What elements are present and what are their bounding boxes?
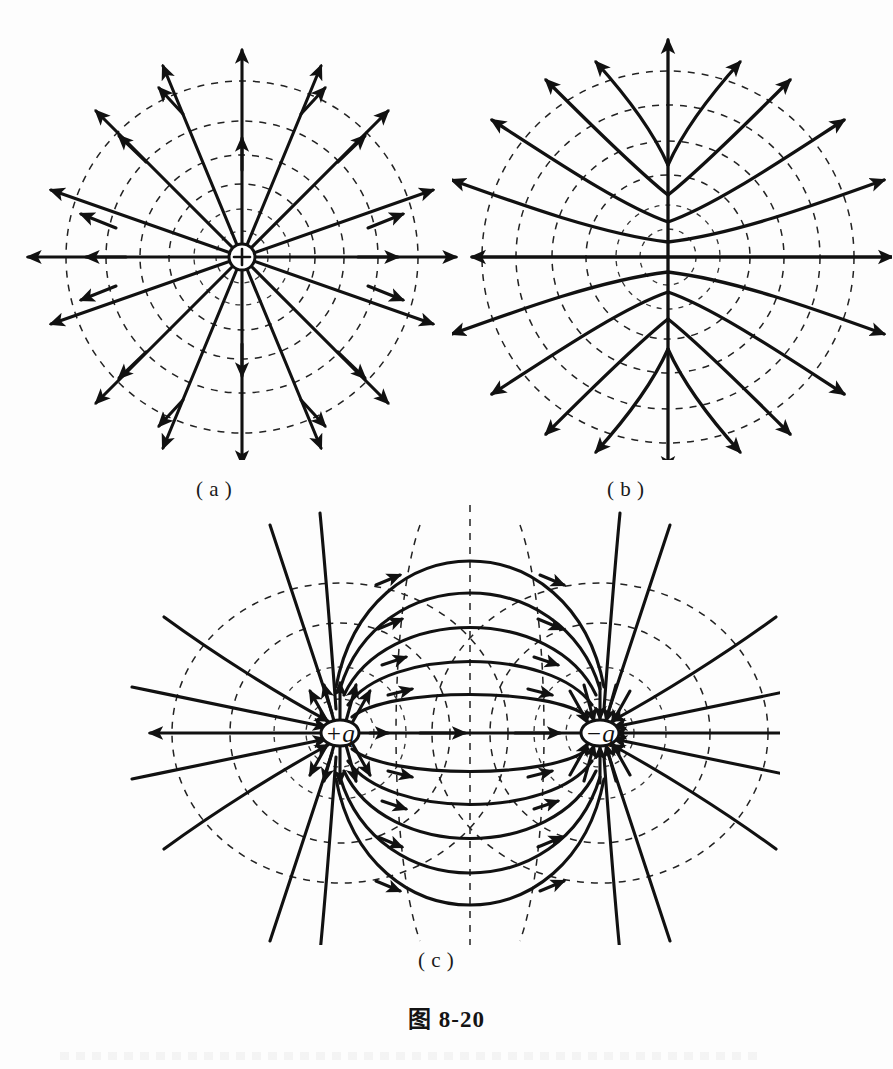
panel-label-a: ( a ): [196, 477, 232, 502]
charge-positive-label-c: +q: [325, 720, 354, 747]
charge-negative-c: −q: [581, 720, 619, 747]
panel-label-b: ( b ): [607, 477, 645, 502]
charge-positive-a: [229, 244, 255, 270]
panel-c-dipole: +q −q: [120, 505, 780, 945]
panel-c-drawing: +q −q: [120, 505, 780, 945]
field-lines-outer-right-c: [604, 513, 780, 945]
panel-b-drawing: [452, 10, 892, 460]
figure-sheet: +q −q ( a ) ( b ) ( c ) 图 8-20: [0, 0, 893, 1069]
panel-a-drawing: [8, 10, 478, 460]
figure-caption: 图 8-20: [0, 1000, 893, 1034]
equipotential-curves-c: [172, 505, 768, 945]
charge-negative-label-c: −q: [585, 720, 614, 747]
charge-positive-c: +q: [321, 720, 359, 747]
panel-label-c: ( c ): [418, 948, 454, 973]
panel-b-curved-field: [452, 10, 892, 460]
page-scan-artifact: [60, 1052, 760, 1060]
panel-a-point-charge: [8, 10, 478, 460]
